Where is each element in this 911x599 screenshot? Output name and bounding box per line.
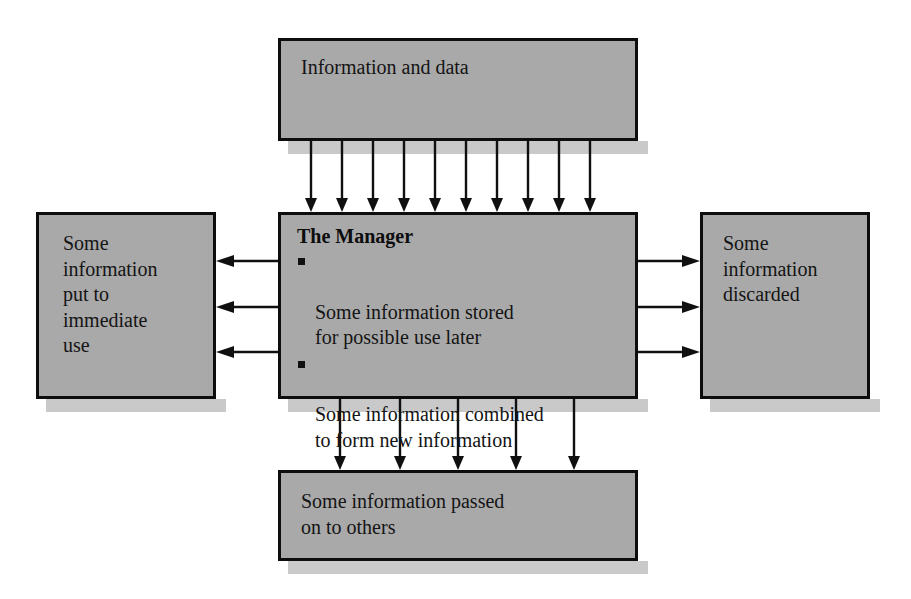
list-item: Some information combined to form new in…	[297, 352, 625, 454]
box-immediate-use-label: Some information put to immediate use	[63, 231, 203, 359]
box-shadow-immediate-use	[46, 399, 226, 412]
box-discarded-label: Some information discarded	[723, 231, 857, 308]
box-discarded[interactable]: Some information discarded	[700, 212, 870, 399]
immediate-use-arrows-group	[216, 255, 278, 358]
discarded-arrows-group	[638, 255, 700, 358]
box-immediate-use[interactable]: Some information put to immediate use	[36, 212, 216, 399]
the-manager-title: The Manager	[297, 224, 625, 248]
list-item: Some information stored for possible use…	[297, 249, 625, 351]
box-shadow-discarded	[710, 399, 880, 412]
box-shadow-information-and-data	[288, 141, 648, 154]
list-item-label: Some information stored for possible use…	[315, 301, 514, 348]
box-information-and-data-label: Information and data	[301, 55, 625, 81]
diagram-canvas: Information and data The Manager Some in…	[0, 0, 911, 599]
box-information-and-data[interactable]: Information and data	[278, 38, 638, 141]
box-passed-on-to-others[interactable]: Some information passed on to others	[278, 470, 638, 561]
the-manager-content: The Manager Some information stored for …	[297, 224, 625, 454]
square-bullet-icon	[298, 258, 305, 265]
square-bullet-icon	[298, 361, 305, 368]
box-shadow-passed-on	[288, 561, 648, 574]
box-the-manager[interactable]: The Manager Some information stored for …	[278, 212, 638, 399]
box-passed-on-to-others-label: Some information passed on to others	[301, 489, 625, 540]
list-item-label: Some information combined to form new in…	[315, 403, 544, 450]
the-manager-bullet-list: Some information stored for possible use…	[297, 249, 625, 453]
